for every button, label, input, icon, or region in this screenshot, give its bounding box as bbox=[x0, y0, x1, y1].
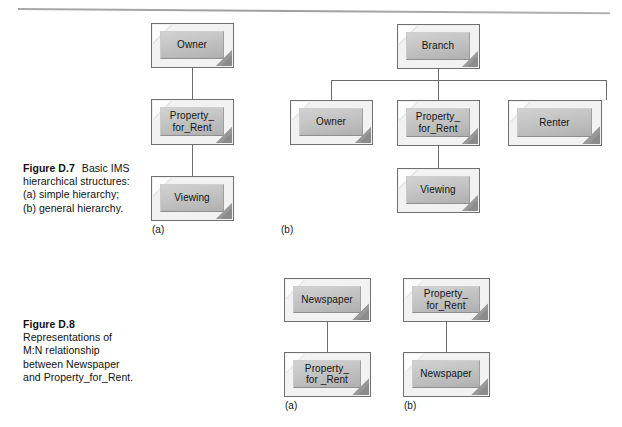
figure-d7-caption-line1: Basic IMS bbox=[82, 162, 130, 174]
entity-label: Newspaper bbox=[420, 368, 471, 380]
entity-box-d7b-owner[interactable]: Owner bbox=[290, 100, 373, 145]
box-face: Property_ for_Rent bbox=[406, 108, 470, 137]
entity-box-d7b-property-for-rent[interactable]: Property_ for_Rent bbox=[397, 100, 480, 146]
figure-d7-number: Figure D.7 bbox=[23, 162, 75, 174]
entity-label: Viewing bbox=[174, 192, 210, 204]
entity-box-d7b-branch[interactable]: Branch bbox=[397, 24, 480, 69]
figure-d8-caption-line1: Representations of bbox=[23, 331, 112, 343]
d7b-connector-property-viewing bbox=[438, 146, 439, 168]
d7b-connector-bus-owner bbox=[331, 80, 332, 100]
entity-label: Property_ for _Rent bbox=[305, 363, 349, 386]
diagram-sublabel-d8-a: (a) bbox=[285, 400, 297, 411]
box-face: Branch bbox=[406, 32, 470, 60]
box-face: Viewing bbox=[406, 176, 470, 204]
entity-label: Owner bbox=[316, 116, 346, 128]
d7b-connector-bus-property bbox=[438, 80, 439, 100]
entity-box-d7b-renter[interactable]: Renter bbox=[508, 100, 602, 146]
entity-label: Property_ for_Rent bbox=[416, 111, 460, 134]
figure-d8-caption: Figure D.8 Representations of M:N relati… bbox=[23, 318, 203, 384]
figure-d8-number: Figure D.8 bbox=[23, 318, 75, 330]
d8b-connector-property-newspaper bbox=[446, 322, 447, 352]
entity-label: Newspaper bbox=[301, 294, 352, 306]
box-face: Owner bbox=[160, 31, 224, 59]
entity-box-d8b-property-for-rent[interactable]: Property_ for_Rent bbox=[403, 278, 490, 322]
figure-d7-caption-line4: (b) general hierarchy. bbox=[23, 202, 123, 214]
box-face: Property_ for_Rent bbox=[412, 286, 480, 313]
figure-d7-caption-line2: hierarchical structures: bbox=[23, 175, 130, 187]
box-face: Renter bbox=[517, 108, 592, 137]
entity-box-d8a-newspaper[interactable]: Newspaper bbox=[284, 278, 371, 322]
d7a-connector-owner-property bbox=[192, 68, 193, 99]
entity-label: Renter bbox=[539, 117, 570, 129]
figure-d8-caption-line3: between Newspaper bbox=[23, 358, 120, 370]
entity-label: Property_ for_Rent bbox=[424, 288, 468, 311]
box-face: Newspaper bbox=[412, 360, 480, 388]
figure-d8-caption-line2: M:N relationship bbox=[23, 344, 100, 356]
box-face: Property_ for_Rent bbox=[160, 107, 224, 136]
diagram-sublabel-d7-b: (b) bbox=[281, 224, 293, 235]
d7b-connector-bus bbox=[331, 80, 606, 81]
d8a-connector-newspaper-property bbox=[327, 322, 328, 352]
entity-label: Owner bbox=[177, 39, 207, 51]
page-top-rule bbox=[18, 8, 610, 14]
entity-box-d7b-viewing[interactable]: Viewing bbox=[397, 168, 480, 213]
box-face: Property_ for _Rent bbox=[293, 360, 361, 388]
diagram-sublabel-d7-a: (a) bbox=[152, 224, 164, 235]
box-face: Newspaper bbox=[293, 286, 361, 313]
entity-label: Viewing bbox=[420, 184, 456, 196]
figure-d7-caption-line3: (a) simple hierarchy; bbox=[23, 188, 119, 200]
entity-label: Branch bbox=[422, 40, 454, 52]
entity-box-d7a-property-for-rent[interactable]: Property_ for_Rent bbox=[151, 99, 234, 145]
diagram-sublabel-d8-b: (b) bbox=[404, 400, 416, 411]
entity-box-d8b-newspaper[interactable]: Newspaper bbox=[403, 352, 490, 397]
entity-box-d7a-owner[interactable]: Owner bbox=[151, 23, 234, 68]
d7b-connector-bus-renter bbox=[606, 80, 607, 100]
figure-d8-caption-line4: and Property_for_Rent. bbox=[23, 371, 133, 383]
d7a-connector-property-viewing bbox=[192, 145, 193, 176]
box-face: Owner bbox=[299, 108, 363, 136]
entity-label: Property_ for_Rent bbox=[170, 110, 214, 133]
entity-box-d8a-property-for-rent[interactable]: Property_ for _Rent bbox=[284, 352, 371, 397]
figure-d7-caption: Figure D.7Basic IMS hierarchical structu… bbox=[23, 162, 183, 215]
